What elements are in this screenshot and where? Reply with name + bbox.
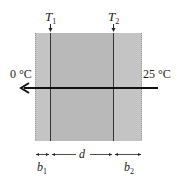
t1-arrow-icon <box>49 28 53 32</box>
b1-label: b1 <box>37 160 47 176</box>
right-temperature: 25 °C <box>143 67 171 81</box>
t1-label: T1 <box>45 9 56 26</box>
left-temperature: 0 °C <box>10 67 32 81</box>
dimension-b1 <box>36 153 49 156</box>
wall-heat-flow-diagram: T1 T2 0 °C 25 °C d b1 b2 <box>0 0 178 176</box>
dimension-b2 <box>115 153 141 156</box>
t2-label: T2 <box>108 9 119 26</box>
b2-label: b2 <box>124 160 134 176</box>
d-label: d <box>79 147 86 161</box>
t2-arrow-icon <box>112 28 116 32</box>
